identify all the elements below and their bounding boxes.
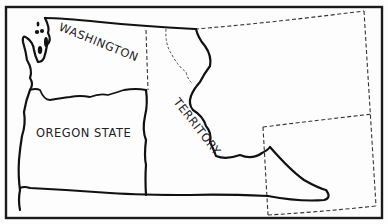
island-2: [35, 30, 39, 34]
territory-inner-boundary: [263, 114, 372, 127]
island-5: [38, 46, 42, 54]
washington-label: WASHINGTON: [57, 20, 141, 65]
panhandle-dotted-line: [166, 29, 192, 83]
territory-north-boundary: [195, 11, 364, 29]
territory-label: TERRITORY: [170, 94, 224, 158]
oregon-label: OREGON STATE: [36, 126, 131, 140]
territory-east-boundary: [364, 11, 376, 206]
island-4: [44, 37, 48, 47]
washington-east-boundary: [146, 30, 148, 90]
columbia-river-border: [30, 89, 146, 100]
territory-west-inner-boundary: [263, 127, 268, 215]
territory-east-border: [190, 29, 329, 201]
washington-west-coast: [23, 18, 50, 90]
territory-south-boundary: [268, 206, 376, 215]
oregon-south-border: [20, 187, 190, 195]
oregon-west-coast: [19, 90, 30, 210]
island-3: [40, 29, 44, 33]
map-container: WASHINGTON OREGON STATE TERRITORY: [0, 0, 388, 224]
island-1: [37, 22, 40, 27]
oregon-east-border: [144, 90, 147, 195]
territory-map: WASHINGTON OREGON STATE TERRITORY: [0, 0, 388, 224]
